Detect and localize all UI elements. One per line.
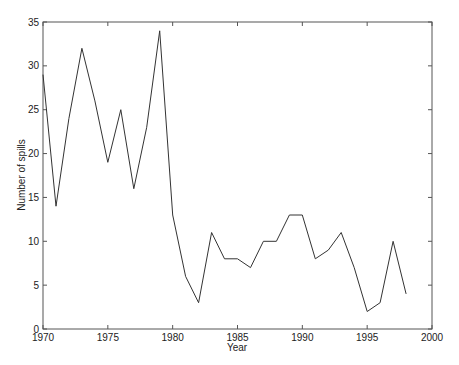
y-tick-label: 20 xyxy=(28,148,40,159)
y-tick-label: 30 xyxy=(28,60,40,71)
y-tick-label: 35 xyxy=(28,17,40,28)
x-tick-label: 2000 xyxy=(421,332,444,343)
spills-line xyxy=(43,31,406,312)
x-tick-label: 1990 xyxy=(291,332,314,343)
x-tick-label: 1970 xyxy=(32,332,55,343)
y-tick-label: 25 xyxy=(28,104,40,115)
x-tick-label: 1980 xyxy=(162,332,185,343)
y-tick-label: 5 xyxy=(33,280,39,291)
x-tick-label: 1975 xyxy=(97,332,120,343)
x-tick-label: 1995 xyxy=(356,332,379,343)
plot-frame xyxy=(43,22,432,329)
y-axis-ticks: 05101520253035 xyxy=(28,17,432,335)
line-chart: 05101520253035 1970197519801985199019952… xyxy=(0,0,459,365)
x-axis-label: Year xyxy=(227,342,248,353)
y-tick-label: 15 xyxy=(28,192,40,203)
y-tick-label: 10 xyxy=(28,236,40,247)
y-axis-label: Number of spills xyxy=(16,139,27,211)
